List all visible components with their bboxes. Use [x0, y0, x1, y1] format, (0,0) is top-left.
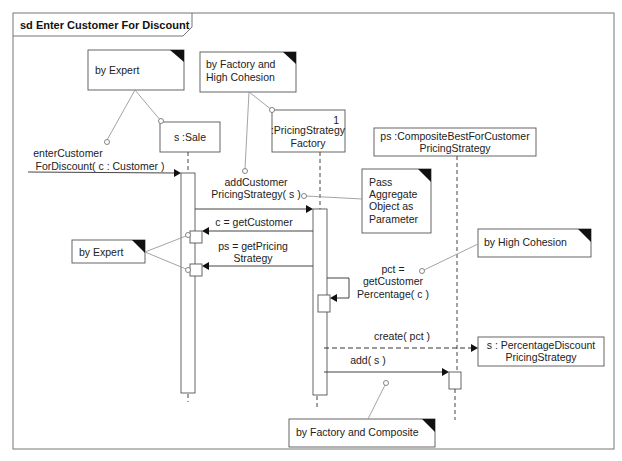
message-label: pct = — [381, 263, 404, 275]
lifeline-composite-label-1: ps :CompositeBestForCustomer — [380, 130, 530, 142]
message-label: add( s ) — [350, 354, 386, 366]
note-text: by High Cohesion — [484, 236, 567, 248]
sequence-diagram: sd Enter Customer For Discount s :Sale 1… — [0, 0, 622, 461]
note-by-high-cohesion[interactable]: by High Cohesion — [420, 229, 592, 274]
lifeline-factory-label-2: Factory — [290, 137, 326, 149]
message-get-pricing-strategy[interactable]: ps = getPricing Strategy — [190, 240, 313, 276]
note-text: by Expert — [79, 246, 123, 258]
arrowhead-icon — [306, 205, 313, 213]
arrowhead-icon — [174, 169, 181, 177]
message-add-customer-pricing-strategy[interactable]: addCustomer PricingStrategy( s ) — [195, 176, 313, 213]
message-label: enterCustomer — [33, 147, 103, 159]
lifeline-pricing-strategy-factory[interactable]: 1 :PricingStrategy Factory — [271, 110, 346, 408]
lifeline-percentage-label-2: PricingStrategy — [505, 351, 577, 363]
lifeline-percentage-label-1: s : PercentageDiscount — [487, 339, 596, 351]
message-label: ForDiscount( c : Customer ) — [36, 160, 165, 172]
note-text: Aggregate — [369, 188, 418, 200]
message-label: getCustomer — [363, 275, 424, 287]
arrowhead-icon — [471, 344, 478, 352]
note-text: by Expert — [95, 64, 139, 76]
lifeline-sale-label: s :Sale — [174, 131, 206, 143]
message-create[interactable]: create( pct ) — [324, 330, 478, 352]
message-get-customer-percentage[interactable]: pct = getCustomer Percentage( c ) — [327, 263, 429, 302]
note-text: Parameter — [369, 213, 419, 225]
activation-get-customer — [190, 231, 202, 243]
note-text: by Factory and — [206, 58, 276, 70]
message-label: PricingStrategy( s ) — [211, 188, 300, 200]
frame-title: sd Enter Customer For Discount — [20, 19, 190, 31]
message-add[interactable]: add( s ) — [324, 354, 449, 376]
message-enter-customer-for-discount[interactable]: enterCustomer ForDiscount( c : Customer … — [28, 147, 181, 177]
message-label: ps = getPricing — [218, 240, 288, 252]
activation-composite — [449, 372, 461, 389]
activation-factory-self — [318, 295, 330, 312]
arrowhead-icon — [202, 227, 209, 235]
activation-get-pricing — [190, 264, 202, 276]
activation-sale — [181, 173, 195, 393]
arrowhead-icon — [202, 262, 209, 270]
message-get-customer[interactable]: c = getCustomer — [190, 216, 313, 243]
message-label: create( pct ) — [374, 330, 430, 342]
note-text: by Factory and Composite — [296, 426, 419, 438]
arrowhead-icon — [330, 294, 337, 302]
note-text: High Cohesion — [206, 71, 275, 83]
note-by-expert-left[interactable]: by Expert — [72, 233, 191, 273]
note-text: Object as — [369, 200, 413, 212]
lifeline-factory-label-1: :PricingStrategy — [271, 124, 346, 136]
note-by-factory-composite[interactable]: by Factory and Composite — [289, 381, 435, 448]
lifeline-percentage-discount-pricing-strategy[interactable]: s : PercentageDiscount PricingStrategy — [478, 337, 604, 366]
arrowhead-icon — [442, 368, 449, 376]
message-label: Percentage( c ) — [357, 288, 429, 300]
note-text: Pass — [369, 176, 392, 188]
message-label: c = getCustomer — [215, 216, 293, 228]
message-label: addCustomer — [224, 176, 288, 188]
message-label: Strategy — [233, 252, 273, 264]
lifeline-composite-label-2: PricingStrategy — [419, 142, 491, 154]
